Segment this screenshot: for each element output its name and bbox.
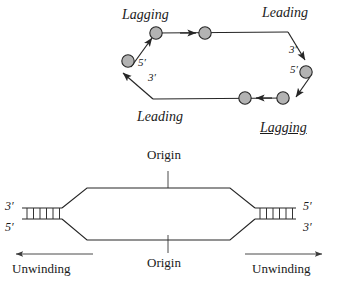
label-left-top-prime: 3′ bbox=[5, 200, 14, 212]
fork-node-bottom-mid bbox=[239, 92, 251, 104]
left-ladder-rungs bbox=[27, 208, 60, 219]
fork-node-top-left bbox=[150, 27, 162, 39]
label-lagging-bottom: Lagging bbox=[260, 121, 307, 135]
right-ladder-rungs bbox=[260, 208, 293, 219]
fork-node-bottom-right bbox=[277, 92, 289, 104]
label-origin-top: Origin bbox=[147, 148, 181, 161]
label-lagging-top: Lagging bbox=[122, 8, 169, 22]
label-leading-top: Leading bbox=[262, 6, 308, 20]
label-right-top-prime: 5′ bbox=[303, 200, 312, 212]
label-three-prime-left: 3′ bbox=[148, 72, 156, 83]
label-five-prime-left: 5′ bbox=[138, 57, 146, 68]
label-leading-bottom: Leading bbox=[137, 110, 183, 124]
label-left-bottom-prime: 5′ bbox=[5, 221, 14, 233]
label-origin-bottom: Origin bbox=[147, 256, 181, 269]
label-three-prime-right: 3′ bbox=[289, 44, 297, 55]
figure-canvas: Lagging Leading Leading Lagging 5′ 3′ 3′… bbox=[0, 0, 337, 285]
right-lower-arrow bbox=[296, 77, 310, 97]
label-five-prime-right: 5′ bbox=[290, 64, 298, 75]
label-right-bottom-prime: 3′ bbox=[303, 221, 312, 233]
fork-node-right bbox=[300, 66, 312, 78]
label-unwinding-left: Unwinding bbox=[12, 262, 71, 275]
bubble-upper-strand bbox=[62, 188, 255, 208]
fork-node-top-mid bbox=[199, 27, 211, 39]
bubble-lower-strand bbox=[62, 219, 255, 240]
fork-node-left bbox=[122, 55, 134, 67]
top-strand-line bbox=[156, 32, 288, 33]
label-unwinding-right: Unwinding bbox=[252, 262, 311, 275]
